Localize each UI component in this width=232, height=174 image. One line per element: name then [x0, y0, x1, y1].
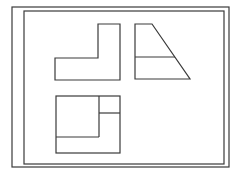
side-view	[135, 24, 190, 79]
drawing-canvas	[0, 0, 232, 174]
l-shape-outline	[55, 24, 120, 80]
front-view	[55, 24, 120, 80]
inner-frame	[24, 11, 224, 164]
trapezoid-outline	[135, 24, 190, 79]
square-outline	[56, 96, 120, 153]
top-view	[56, 96, 120, 153]
